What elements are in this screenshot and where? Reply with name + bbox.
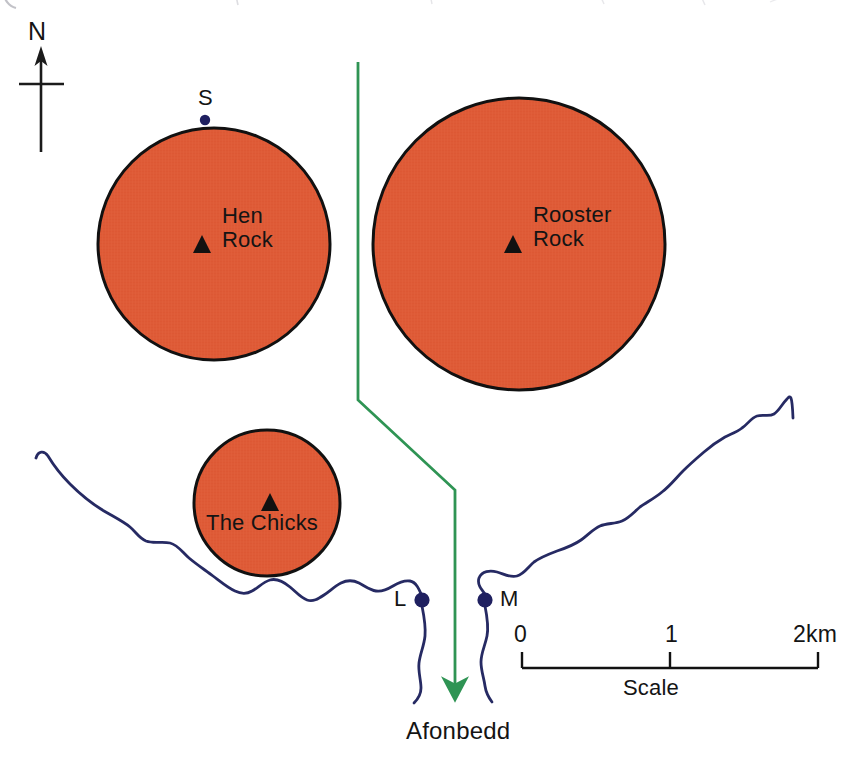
scale-label-two-km: 2km: [793, 622, 837, 647]
north-arrow-icon: [19, 46, 64, 152]
scale-caption: Scale: [623, 676, 679, 700]
point-label-M: M: [500, 587, 519, 611]
rooster-rock-label: Rooster Rock: [533, 203, 611, 251]
the-chicks-label-line1: The Chicks: [206, 511, 318, 535]
river-east-outflow: [481, 606, 492, 702]
map-graphics-layer: [0, 0, 868, 764]
scale-bar: [522, 652, 818, 668]
hen-rock-outline: [98, 128, 330, 360]
river-west-outflow: [414, 606, 425, 703]
point-dot-S[interactable]: [200, 115, 210, 125]
hen-rock-label-line1: Hen: [222, 204, 273, 228]
afonbedd-label: Afonbedd: [406, 718, 510, 744]
point-dot-L[interactable]: [414, 592, 429, 607]
point-label-S: S: [198, 86, 213, 110]
map-canvas: N Hen Rock Rooster Rock The Chicks S L M…: [0, 0, 868, 764]
north-arrow-label: N: [28, 18, 46, 45]
point-dot-M[interactable]: [477, 592, 492, 607]
rooster-rock-label-line1: Rooster: [533, 203, 611, 227]
the-chicks-label: The Chicks: [206, 511, 318, 535]
rooster-rock-outline: [373, 98, 665, 390]
hen-rock-label-line2: Rock: [222, 228, 273, 252]
scale-label-zero: 0: [514, 622, 527, 647]
scan-artifact: [4, 0, 790, 8]
hen-rock-label: Hen Rock: [222, 204, 273, 252]
river-east: [478, 397, 793, 594]
point-label-L: L: [394, 587, 406, 611]
scale-label-one: 1: [665, 622, 678, 647]
rooster-rock-label-line2: Rock: [533, 227, 611, 251]
